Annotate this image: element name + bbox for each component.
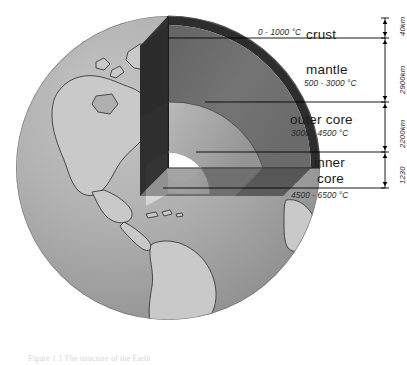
scale-value-outer-core: 2200km <box>398 120 407 148</box>
scale-value-inner-core: 1230 <box>398 166 407 184</box>
figure-caption: Figure 1.1 The structure of the Earth <box>28 354 150 365</box>
crust-label: crust <box>306 27 336 42</box>
mantle-temperature-label: 500 - 3000 °C <box>304 78 357 88</box>
inner-core-temperature-label: 4500 - 6500 °C <box>291 190 348 200</box>
mantle-label: mantle <box>306 62 348 77</box>
depth-scale-bar <box>381 18 389 188</box>
outer-core-label: outer core <box>290 112 353 127</box>
scale-value-mantle: 2900km <box>398 66 407 94</box>
outer-core-temperature-label: 3000 - 4500 °C <box>291 128 348 138</box>
crust-temperature-label: 0 - 1000 °C <box>258 27 301 37</box>
inner-core-label-line2: core <box>317 171 344 186</box>
inner-core-label-line1: inner <box>314 155 345 170</box>
scale-value-crust: 40km <box>398 17 407 36</box>
